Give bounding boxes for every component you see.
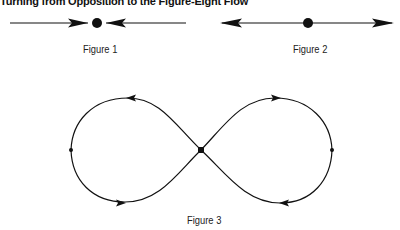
diagram-canvas: [0, 0, 400, 230]
left-extreme-dot: [69, 148, 73, 152]
equilibrium-dot: [92, 18, 102, 28]
figure-1-diagram: [10, 18, 186, 28]
figure-3-arrows: [69, 95, 334, 207]
arrow-right-icon: [116, 200, 126, 207]
crossing-point: [198, 147, 204, 153]
figure-2-caption: Figure 2: [293, 43, 327, 55]
equilibrium-dot: [303, 18, 313, 28]
right-extreme-dot: [330, 148, 334, 152]
figure-2-diagram: [220, 18, 394, 28]
figure-1-caption: Figure 1: [83, 43, 117, 55]
figure-3-caption: Figure 3: [187, 214, 221, 226]
